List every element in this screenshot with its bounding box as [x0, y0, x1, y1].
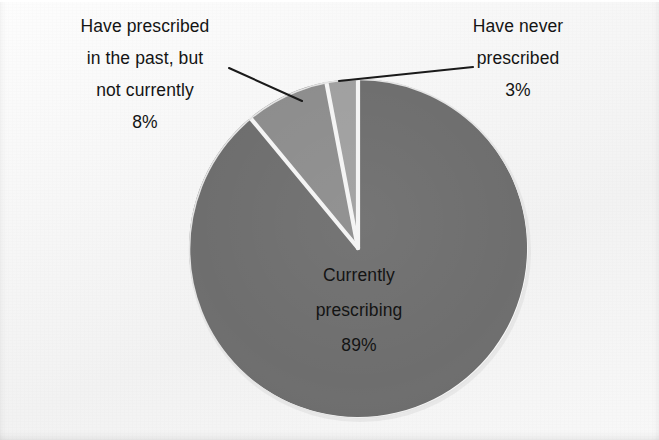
label-line-3: not currently: [36, 74, 254, 106]
label-line-1: Currently: [268, 258, 450, 293]
label-prescribed-in-past: Have prescribed in the past, but not cur…: [36, 10, 254, 138]
pie-chart-figure: Have prescribed in the past, but not cur…: [0, 0, 659, 440]
label-never-prescribed: Have never prescribed 3%: [420, 10, 616, 106]
label-value-3-percent: 3%: [420, 74, 616, 106]
label-currently-prescribing: Currently prescribing 89%: [268, 258, 450, 363]
label-line-2: in the past, but: [36, 42, 254, 74]
label-line-1: Have prescribed: [36, 10, 254, 42]
label-line-2: prescribing: [268, 293, 450, 328]
label-value-89-percent: 89%: [268, 328, 450, 363]
label-line-2: prescribed: [420, 42, 616, 74]
label-value-8-percent: 8%: [36, 106, 254, 138]
label-line-1: Have never: [420, 10, 616, 42]
